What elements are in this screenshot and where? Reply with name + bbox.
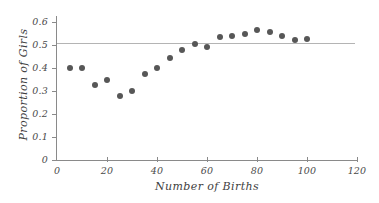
- x-tick-mark: [157, 157, 158, 162]
- x-tick-label: 60: [192, 165, 222, 176]
- data-point: [279, 33, 285, 39]
- data-point: [192, 41, 198, 47]
- x-tick-label: 40: [142, 165, 172, 176]
- data-point: [242, 31, 248, 37]
- x-tick-label: 0: [42, 165, 72, 176]
- data-point: [204, 44, 210, 50]
- x-tick-mark: [257, 157, 258, 162]
- data-point: [254, 27, 260, 33]
- y-axis-line: [56, 16, 57, 161]
- data-point: [142, 71, 148, 77]
- data-point: [292, 37, 298, 43]
- x-axis-title: Number of Births: [56, 180, 358, 193]
- x-tick-label: 80: [242, 165, 272, 176]
- data-point: [167, 55, 173, 61]
- x-tick-mark: [207, 157, 208, 162]
- y-tick-mark: [52, 114, 57, 115]
- data-point: [217, 34, 223, 40]
- data-point: [229, 33, 235, 39]
- scatter-plot-figure: 00.10.20.30.40.50.6 020406080100120 Numb…: [0, 0, 379, 203]
- y-tick-mark: [52, 137, 57, 138]
- data-point: [117, 93, 123, 99]
- x-tick-label: 20: [92, 165, 122, 176]
- y-axis-title: Proportion of Girls: [17, 10, 30, 160]
- x-tick-label: 100: [292, 165, 322, 176]
- data-point: [129, 88, 135, 94]
- x-tick-mark: [357, 157, 358, 162]
- data-point: [67, 65, 73, 71]
- data-point: [179, 47, 185, 53]
- data-point: [154, 65, 160, 71]
- x-tick-label: 120: [342, 165, 372, 176]
- y-tick-mark: [52, 68, 57, 69]
- data-point: [267, 29, 273, 35]
- x-tick-mark: [307, 157, 308, 162]
- data-point: [104, 77, 110, 83]
- y-tick-mark: [52, 160, 57, 161]
- data-point: [304, 36, 310, 42]
- y-tick-mark: [52, 91, 57, 92]
- data-point: [92, 82, 98, 88]
- y-tick-mark: [52, 45, 57, 46]
- data-point: [79, 65, 85, 71]
- x-tick-mark: [107, 157, 108, 162]
- y-tick-mark: [52, 22, 57, 23]
